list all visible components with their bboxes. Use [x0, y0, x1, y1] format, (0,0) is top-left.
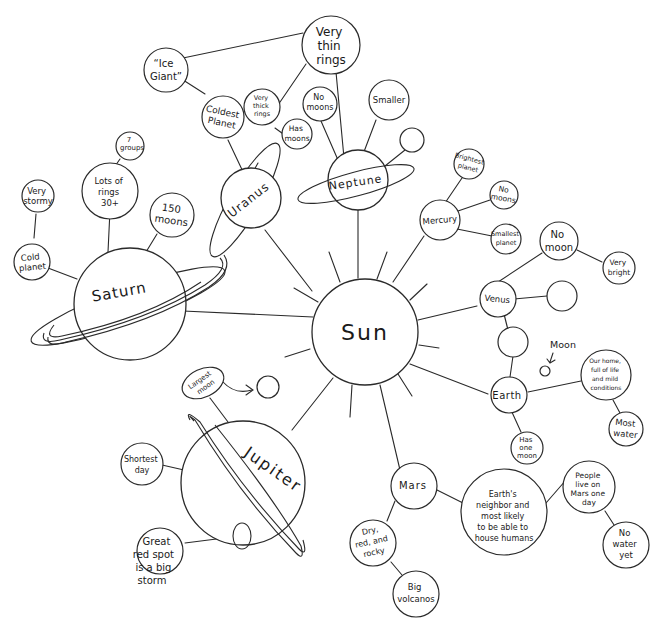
fact-smaller-text: Smaller: [373, 95, 406, 105]
blank-bubble-venus-right[interactable]: [547, 281, 577, 311]
connector-mercury-nomoons: [458, 200, 490, 211]
connector-saturn-cold: [48, 268, 77, 279]
jupiter-largest-moon[interactable]: [257, 376, 279, 398]
blank-bubble-venus-below[interactable]: [498, 327, 528, 357]
connector-mercury-smallest: [457, 229, 492, 236]
connector-venus-blank: [514, 296, 547, 299]
connector-jupiter-shortest: [162, 465, 184, 470]
fact-no-moon[interactable]: [540, 222, 578, 260]
moon-arrow: [547, 353, 555, 363]
earth-label: Earth: [492, 390, 521, 401]
connector-neptune-nomoons: [321, 121, 338, 160]
neptune-group: Neptune: [295, 150, 417, 211]
earth-moon[interactable]: [540, 366, 550, 376]
connector-mercury-brightest: [445, 178, 462, 203]
blank-bubble-neptune[interactable]: [400, 128, 424, 152]
connector-sun-mars: [380, 385, 400, 470]
fact-most-water-text: Most water: [613, 417, 640, 440]
connector-mars-neighbor: [435, 489, 463, 503]
connector-blank-earth: [510, 356, 513, 377]
sun-ray: [350, 385, 352, 417]
solar-system-mind-map: Sun Saturn Cold planet Very stormy Lots …: [0, 0, 657, 630]
connector-neptune-thin: [336, 72, 344, 158]
fact-very-thick-rings-text: Very thick rings: [253, 94, 271, 118]
jupiter-group: Jupiter: [181, 414, 306, 556]
connector-earth-onemoon: [511, 410, 521, 432]
connector-saturn-150: [146, 234, 157, 252]
fact-largest-moon[interactable]: [177, 361, 229, 405]
connector-sun-earth: [410, 364, 488, 394]
connector-sun-mercury: [393, 236, 424, 282]
connector-nomoon-verybright: [577, 250, 602, 262]
connector-dry-volcano: [391, 562, 402, 575]
moon-annotation: Moon: [550, 339, 576, 350]
sun-ray: [329, 252, 340, 282]
sun-ray: [285, 349, 310, 357]
fact-very-thin-rings-text: Very thin rings: [316, 25, 347, 67]
connector-cold-stormy: [34, 214, 36, 238]
fact-very-bright-text: Very bright: [608, 258, 630, 277]
connector-sun-venus: [418, 306, 477, 320]
sun-ray: [398, 374, 412, 396]
fact-shortest-day[interactable]: [121, 443, 163, 485]
saturn-group: Saturn: [25, 248, 231, 360]
connector-earth-home: [528, 381, 581, 392]
mars-label: Mars: [399, 480, 427, 491]
fact-ice-giant[interactable]: [144, 48, 188, 92]
sun-ray: [294, 288, 318, 302]
sun-ray: [377, 252, 387, 279]
connector-mars-dry: [387, 501, 395, 521]
fact-has-one-moon-text: Has one moon: [517, 436, 537, 460]
connector-sun-uranus: [265, 230, 312, 291]
fact-very-stormy-text: Very stormy: [23, 186, 53, 206]
sun-ray: [419, 345, 439, 348]
connector-thick-thin: [278, 64, 306, 105]
sun-ray: [410, 284, 427, 300]
connector-jupiter-largest: [210, 398, 228, 422]
connector-sun-saturn: [183, 311, 313, 317]
connector-sun-jupiter: [292, 378, 333, 430]
sun-label: Sun: [341, 320, 389, 345]
connector-home-water: [613, 400, 620, 413]
connector-icegiant-thin: [183, 33, 303, 58]
